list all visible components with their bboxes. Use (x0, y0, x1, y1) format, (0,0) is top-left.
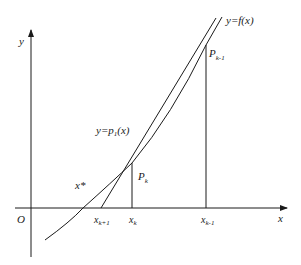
x-axis-label: x (277, 212, 283, 224)
secant-method-diagram: y x O y=f(x) y=p1(x) x* Pk Pk-1 xk+1 xk … (0, 0, 301, 265)
function-curve (45, 17, 222, 240)
point-pk1-label: Pk-1 (208, 47, 225, 62)
tick-xk1-label: xk+1 (93, 214, 110, 227)
y-axis-label: y (18, 35, 24, 47)
tick-xkm1-label: xk-1 (200, 214, 214, 227)
secant-line (101, 18, 216, 208)
origin-label: O (17, 213, 25, 225)
root-label: x* (74, 179, 86, 191)
function-label: y=f(x) (225, 14, 254, 27)
secant-label: y=p1(x) (95, 124, 130, 138)
tick-xk-label: xk (128, 214, 137, 227)
point-pk-label: Pk (137, 170, 149, 185)
